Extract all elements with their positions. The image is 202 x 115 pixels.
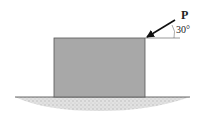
angle-arc (172, 25, 175, 38)
diagram-canvas (0, 0, 202, 115)
force-label: P (181, 8, 188, 23)
ground (15, 97, 190, 111)
block (54, 38, 145, 97)
angle-label: 30° (176, 24, 190, 35)
force-arrow (147, 20, 175, 37)
